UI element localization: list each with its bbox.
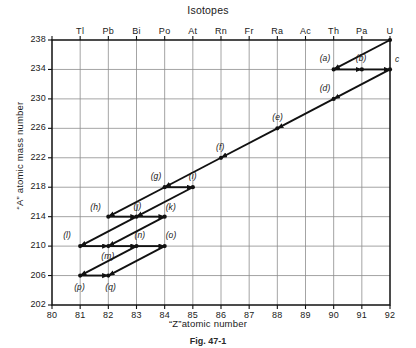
isotope-decay-figure: Isotopes TlPbBiPoAtRnFrRaAcThPaU “A” ato…	[0, 0, 416, 348]
point-label-c: c	[395, 54, 399, 64]
y-tick-210: 210	[20, 240, 46, 250]
y-tick-226: 226	[20, 122, 46, 132]
x-tick-89: 89	[293, 310, 319, 320]
point-label-p: (p)	[74, 282, 85, 292]
x-tick-84: 84	[152, 310, 178, 320]
x-tick-88: 88	[264, 310, 290, 320]
y-tick-214: 214	[20, 211, 46, 221]
point-label-i: (i)	[189, 171, 197, 181]
x-tick-90: 90	[321, 310, 347, 320]
x-tick-85: 85	[180, 310, 206, 320]
y-tick-202: 202	[20, 299, 46, 309]
y-tick-206: 206	[20, 270, 46, 280]
x-tick-87: 87	[236, 310, 262, 320]
point-label-k: (k)	[166, 202, 176, 212]
y-tick-234: 234	[20, 63, 46, 73]
x-tick-82: 82	[95, 310, 121, 320]
point-label-h: (h)	[90, 202, 101, 212]
point-label-q: (q)	[105, 282, 116, 292]
point-label-n: (n)	[135, 230, 146, 240]
gridlines	[52, 40, 390, 305]
x-tick-81: 81	[67, 310, 93, 320]
plot-frame	[48, 36, 390, 309]
y-tick-230: 230	[20, 93, 46, 103]
figure-caption: Fig. 47-1	[0, 336, 416, 346]
point-label-o: (o)	[166, 230, 177, 240]
point-label-j: (j)	[134, 201, 142, 211]
point-label-g: (g)	[151, 171, 162, 181]
point-label-f: (f)	[216, 142, 224, 152]
point-label-e: (e)	[272, 112, 283, 122]
y-tick-222: 222	[20, 152, 46, 162]
plot-canvas	[0, 0, 416, 348]
y-tick-218: 218	[20, 181, 46, 191]
x-tick-92: 92	[377, 310, 403, 320]
point-label-d: (d)	[320, 83, 331, 93]
point-label-a: (a)	[320, 53, 331, 63]
point-label-m: (m)	[101, 251, 114, 261]
x-tick-80: 80	[39, 310, 65, 320]
y-tick-238: 238	[20, 34, 46, 44]
x-tick-91: 91	[349, 310, 375, 320]
point-label-b: (b)	[356, 53, 367, 63]
x-tick-86: 86	[208, 310, 234, 320]
x-tick-83: 83	[124, 310, 150, 320]
point-label-l: (l)	[63, 230, 71, 240]
